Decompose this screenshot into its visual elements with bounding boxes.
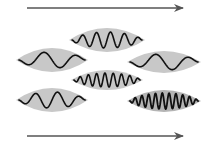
packet-left-upper [16,48,88,72]
packet-left-lower [16,88,88,112]
packet-right-upper [127,51,201,73]
packet-middle-center [71,70,143,90]
packet-right-lower [127,90,201,112]
packet-top-center [69,28,145,52]
wave-packet-diagram [0,0,216,144]
diagram-canvas [0,0,216,144]
